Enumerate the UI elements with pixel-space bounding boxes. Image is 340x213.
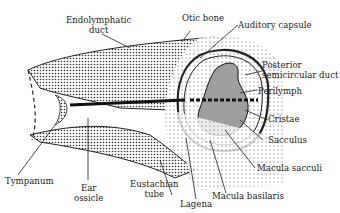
tympanum-shape	[28, 70, 35, 140]
label-line: ossicle	[74, 193, 103, 203]
label-line: Endolymphatic	[66, 15, 131, 25]
label-auditory-capsule: Auditory capsule	[238, 20, 312, 30]
label-line: semicircular duct	[262, 70, 338, 80]
label-otic-bone: Otic bone	[182, 13, 224, 23]
label-line: Eustachian	[130, 179, 179, 189]
label-perilymph: Perilymph	[258, 86, 302, 96]
label-line: Posterior	[262, 60, 338, 70]
label-ear-ossicle: Ear ossicle	[74, 183, 103, 203]
label-sacculus: Sacculus	[268, 135, 307, 145]
label-macula-sacculi: Macula sacculi	[257, 163, 322, 173]
label-line: Ear	[74, 183, 103, 193]
label-tympanum: Tympanum	[5, 176, 54, 186]
label-macula-basilaris: Macula basilaris	[212, 191, 284, 201]
label-eustachian-tube: Eustachian tube	[130, 179, 179, 199]
label-lagena: Lagena	[180, 199, 212, 209]
label-endolymphatic-duct: Endolymphatic duct	[66, 15, 131, 35]
label-cristae: Cristae	[268, 114, 300, 124]
label-line: tube	[130, 189, 179, 199]
label-posterior-semicircular-duct: Posterior semicircular duct	[262, 60, 338, 80]
label-line: duct	[66, 25, 131, 35]
